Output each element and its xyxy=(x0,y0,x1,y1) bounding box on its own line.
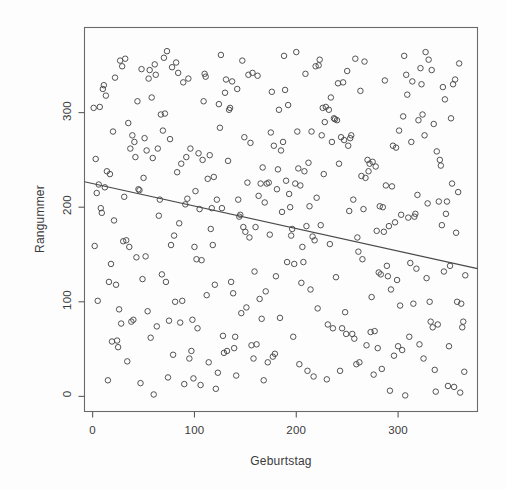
y-tick-label: 200 xyxy=(61,188,73,222)
data-point xyxy=(206,360,212,366)
data-point xyxy=(103,93,109,99)
data-point xyxy=(299,280,305,286)
data-point xyxy=(219,205,225,211)
data-point xyxy=(402,393,408,399)
data-point xyxy=(410,79,416,85)
data-point xyxy=(329,139,335,145)
data-point xyxy=(318,222,324,228)
data-point xyxy=(434,149,440,155)
data-point xyxy=(220,333,226,339)
data-point xyxy=(375,345,381,351)
data-point xyxy=(456,61,462,67)
data-point xyxy=(409,139,415,145)
data-point xyxy=(296,166,302,172)
data-point xyxy=(283,178,289,184)
data-point xyxy=(431,121,437,127)
data-point xyxy=(225,158,231,164)
data-point xyxy=(248,140,254,146)
data-point xyxy=(166,318,172,324)
data-point xyxy=(301,259,307,265)
data-point xyxy=(352,336,358,342)
data-point xyxy=(163,279,169,285)
data-point xyxy=(247,235,253,241)
data-point xyxy=(281,53,287,59)
data-point xyxy=(251,356,257,362)
y-axis-ticks xyxy=(79,113,85,397)
data-point xyxy=(168,242,174,248)
data-point xyxy=(451,384,457,390)
data-point xyxy=(194,256,200,262)
data-point xyxy=(164,48,170,54)
data-point xyxy=(381,229,387,235)
x-tick-label: 200 xyxy=(276,424,316,436)
data-point xyxy=(285,102,291,108)
data-point xyxy=(389,184,395,190)
data-point xyxy=(425,201,431,207)
data-point xyxy=(165,375,171,381)
data-point xyxy=(257,296,263,302)
data-point xyxy=(170,352,176,358)
data-point xyxy=(110,129,116,135)
data-point xyxy=(327,241,333,247)
data-point xyxy=(291,261,297,267)
data-point xyxy=(198,382,204,388)
data-point xyxy=(263,289,269,295)
data-point xyxy=(199,257,205,263)
data-point xyxy=(277,315,283,321)
data-point xyxy=(100,86,106,92)
data-point xyxy=(344,68,350,74)
data-point xyxy=(355,235,361,241)
data-point xyxy=(138,380,144,386)
data-point xyxy=(435,322,441,328)
data-point xyxy=(182,381,188,387)
data-point xyxy=(422,133,428,139)
data-point xyxy=(430,325,436,331)
data-point xyxy=(143,254,149,260)
data-point xyxy=(426,57,432,63)
data-point xyxy=(259,316,265,322)
data-point xyxy=(298,183,304,189)
data-point xyxy=(169,64,175,70)
data-point xyxy=(218,52,224,58)
data-point xyxy=(125,359,131,365)
data-point xyxy=(444,199,450,205)
data-point xyxy=(314,195,320,201)
data-point xyxy=(239,310,245,316)
data-point xyxy=(196,151,202,157)
x-tick-label: 100 xyxy=(174,424,214,436)
data-point xyxy=(437,157,443,163)
data-point xyxy=(418,65,424,71)
data-point xyxy=(174,169,180,175)
data-point xyxy=(309,129,315,135)
data-point xyxy=(421,356,427,362)
data-point xyxy=(227,105,233,111)
y-tick-label: 0 xyxy=(61,377,73,411)
data-point xyxy=(268,130,274,136)
data-point xyxy=(249,343,255,349)
x-tick-label: 300 xyxy=(378,424,418,436)
data-point xyxy=(233,373,239,379)
data-point xyxy=(122,56,128,62)
data-point xyxy=(160,128,166,134)
data-point xyxy=(353,56,359,62)
data-point xyxy=(228,279,234,285)
data-point xyxy=(403,72,409,78)
data-point xyxy=(127,244,133,250)
data-point xyxy=(455,189,461,195)
data-point xyxy=(149,95,155,101)
data-point xyxy=(407,334,413,340)
data-point xyxy=(191,376,197,382)
data-point xyxy=(288,233,294,239)
data-point xyxy=(340,80,346,86)
data-point xyxy=(317,57,323,63)
data-point xyxy=(152,62,158,68)
data-point xyxy=(322,119,328,125)
data-point xyxy=(271,143,277,149)
data-point xyxy=(244,305,250,311)
data-point xyxy=(139,66,145,72)
scatter-plot-svg xyxy=(0,0,506,489)
x-tick-label: 0 xyxy=(73,424,113,436)
data-point xyxy=(463,273,469,279)
data-point xyxy=(394,277,400,283)
data-point xyxy=(448,116,454,122)
